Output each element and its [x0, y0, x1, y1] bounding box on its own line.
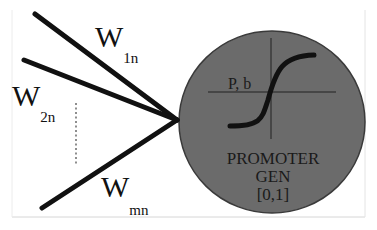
weight-symbol: W — [12, 79, 40, 112]
node-name-line2: GEN — [208, 168, 338, 186]
weight-subscript: 2n — [40, 109, 55, 125]
neuron-diagram: W1n W2n Wmn P, b PROMOTER GEN [0,1] — [0, 0, 377, 230]
node-name-line1: PROMOTER — [208, 150, 338, 168]
node-range: [0,1] — [208, 186, 338, 204]
node-name: PROMOTER GEN [0,1] — [208, 150, 338, 204]
function-params-label: P, b — [228, 76, 251, 93]
weight-subscript: mn — [129, 202, 148, 218]
weight-symbol: W — [101, 170, 129, 203]
weight-label-w2n: W2n — [12, 81, 55, 111]
weight-label-wmn: Wmn — [101, 172, 149, 202]
weight-symbol: W — [95, 20, 123, 53]
weight-label-w1n: W1n — [95, 22, 138, 52]
weight-subscript: 1n — [123, 50, 138, 66]
